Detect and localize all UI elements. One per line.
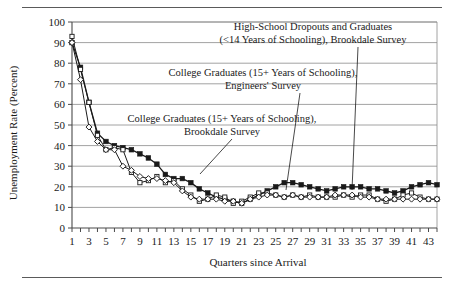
marker-square-filled [333,187,338,192]
y-tick-label-100: 100 [49,16,66,28]
annotation-engineers-line2: Engineers' Survey [225,80,302,91]
leader-line-2 [200,139,232,174]
marker-square-filled [273,185,278,190]
x-tick-label-7: 7 [120,235,126,247]
y-axis-title: Unemployment Rate (Percent) [7,65,20,200]
marker-square-open [121,148,125,152]
x-axis-title: Quarters since Arrival [209,256,306,268]
x-tick-label-1: 1 [69,235,75,247]
top-rule [22,7,442,8]
x-tick-label-29: 29 [304,235,316,247]
marker-square-filled [409,185,414,190]
marker-square-filled [418,182,423,187]
y-tick-label-20: 20 [54,181,66,193]
x-tick-label-31: 31 [321,235,332,247]
x-tick-label-17: 17 [202,235,214,247]
annotation-high-school-line2: (<14 Years of Schooling), Brookdale Surv… [219,34,407,46]
marker-square-filled [180,176,185,181]
marker-square-filled [146,156,151,161]
marker-square-filled [129,147,134,152]
marker-square-filled [282,180,287,185]
x-tick-label-37: 37 [372,235,384,247]
y-axis: 0102030405060708090100 [49,16,73,234]
marker-square-filled [316,187,321,192]
marker-diamond-open [409,196,415,202]
marker-square-filled [384,189,389,194]
marker-square-filled [163,172,168,177]
marker-square-filled [435,182,440,187]
y-tick-label-70: 70 [54,78,66,90]
annotation-brookdale-college-line1: College Graduates (15+ Years of Schoolin… [128,113,317,125]
y-tick-label-0: 0 [60,222,66,234]
marker-square-filled [104,139,109,144]
y-tick-label-50: 50 [54,119,66,131]
y-tick-label-40: 40 [54,140,66,152]
marker-square-filled [358,185,363,190]
marker-square-filled [155,162,160,167]
marker-square-filled [206,191,211,196]
x-tick-label-9: 9 [137,235,143,247]
annotation-high-school-line1: High-School Dropouts and Graduates [234,21,392,32]
y-tick-label-80: 80 [54,57,66,69]
x-tick-label-35: 35 [355,235,367,247]
figure-container: 0102030405060708090100 13579111315171921… [0,0,460,287]
x-axis: 135791113151719212325272931333537394143 [69,228,437,247]
marker-square-filled [189,180,194,185]
x-tick-label-41: 41 [406,235,417,247]
x-tick-label-21: 21 [236,235,247,247]
marker-square-open [95,133,99,137]
y-tick-label-60: 60 [54,98,66,110]
marker-square-filled [307,185,312,190]
x-tick-label-3: 3 [86,235,92,247]
marker-square-open [138,181,142,185]
marker-square-filled [426,180,431,185]
marker-square-filled [299,182,304,187]
marker-square-filled [197,187,202,192]
x-tick-label-15: 15 [185,235,197,247]
y-tick-label-10: 10 [54,201,66,213]
x-tick-label-13: 13 [168,235,180,247]
marker-square-filled [375,187,380,192]
x-tick-label-19: 19 [219,235,231,247]
x-tick-label-43: 43 [423,235,435,247]
marker-square-open [409,191,413,195]
marker-diamond-open [120,163,126,169]
marker-square-filled [341,185,346,190]
marker-square-filled [290,180,295,185]
unemployment-line-chart: 0102030405060708090100 13579111315171921… [0,0,460,287]
annotation-brookdale-college-line2: Brookdale Survey [184,126,261,137]
x-tick-label-23: 23 [253,235,265,247]
marker-square-filled [367,187,372,192]
y-tick-label-90: 90 [54,37,66,49]
y-tick-label-30: 30 [54,160,66,172]
leader-line-1 [286,93,300,190]
x-tick-label-27: 27 [287,235,299,247]
x-tick-label-5: 5 [103,235,109,247]
x-tick-label-11: 11 [152,235,163,247]
x-tick-label-39: 39 [389,235,401,247]
marker-square-filled [138,152,143,157]
marker-square-filled [324,189,329,194]
marker-square-open [87,100,91,104]
x-tick-label-25: 25 [270,235,282,247]
marker-square-open [70,34,74,38]
marker-square-filled [392,191,397,196]
marker-square-open [78,67,82,71]
x-tick-label-33: 33 [338,235,350,247]
bottom-rule [22,277,442,278]
annotation-engineers-line1: College Graduates (15+ Years of Schoolin… [169,67,358,79]
